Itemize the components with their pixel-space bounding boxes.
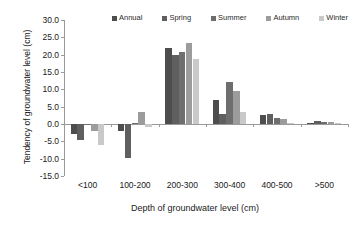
bar-summer-0 [84, 124, 91, 125]
y-tick-mark [61, 176, 64, 177]
y-tick-mark [61, 89, 64, 90]
bar-winter-0 [98, 124, 105, 145]
y-tick-label: 30.0 [25, 15, 59, 25]
bar-spring-5 [314, 121, 321, 124]
bar-annual-0 [71, 124, 78, 134]
x-tick-mark [206, 124, 207, 127]
y-tick-label: 25.0 [25, 32, 59, 42]
x-tick-mark [253, 124, 254, 127]
bar-annual-4 [260, 115, 267, 124]
x-tick-mark [348, 124, 349, 127]
y-axis-line [64, 20, 65, 176]
bar-spring-0 [77, 124, 84, 140]
bar-autumn-1 [138, 112, 145, 124]
bar-spring-4 [267, 114, 274, 124]
bar-autumn-2 [186, 43, 193, 124]
bar-spring-3 [219, 114, 226, 124]
x-tick-label: 200-300 [167, 180, 198, 190]
x-tick-label: >500 [315, 180, 334, 190]
bar-annual-5 [307, 123, 314, 124]
x-tick-label: <100 [78, 180, 97, 190]
bar-summer-2 [179, 52, 186, 124]
x-tick-label: 400-500 [261, 180, 292, 190]
bar-summer-5 [321, 122, 328, 124]
y-tick-label: 20.0 [25, 50, 59, 60]
y-tick-mark [61, 159, 64, 160]
bar-winter-4 [287, 123, 294, 124]
bar-annual-1 [118, 124, 125, 131]
bar-autumn-0 [91, 124, 98, 131]
bar-summer-1 [132, 123, 139, 124]
y-tick-mark [61, 107, 64, 108]
bar-autumn-3 [233, 91, 240, 124]
bar-spring-1 [125, 124, 132, 158]
y-tick-mark [61, 141, 64, 142]
y-tick-mark [61, 72, 64, 73]
x-tick-label: 100-200 [119, 180, 150, 190]
x-tick-mark [159, 124, 160, 127]
y-tick-mark [61, 55, 64, 56]
x-tick-mark [111, 124, 112, 127]
bar-summer-4 [274, 118, 281, 124]
y-tick-mark [61, 37, 64, 38]
bar-autumn-4 [280, 119, 287, 124]
y-tick-mark [61, 20, 64, 21]
y-tick-label: 15.0 [25, 67, 59, 77]
y-tick-label: 5.0 [25, 102, 59, 112]
bar-spring-2 [172, 55, 179, 124]
bar-winter-5 [335, 123, 342, 124]
bar-winter-3 [240, 112, 247, 124]
bar-annual-2 [165, 48, 172, 124]
plot-area: -15.0-10.0-5.00.05.010.015.020.025.030.0… [64, 20, 348, 176]
x-tick-mark [64, 124, 65, 127]
x-tick-label: 300-400 [214, 180, 245, 190]
bar-winter-2 [193, 59, 200, 124]
y-tick-label: -10.0 [25, 154, 59, 164]
x-tick-mark [301, 124, 302, 127]
y-tick-label: -15.0 [25, 171, 59, 181]
y-tick-label: 0.0 [25, 119, 59, 129]
bar-winter-1 [145, 124, 152, 127]
bar-autumn-5 [328, 122, 335, 124]
bar-chart: AnnualSpringSummerAutumnWinter Tendency … [0, 0, 355, 228]
bar-summer-3 [226, 82, 233, 124]
y-tick-label: -5.0 [25, 136, 59, 146]
bar-annual-3 [213, 100, 220, 124]
y-tick-label: 10.0 [25, 84, 59, 94]
x-axis-title: Depth of groundwater level (cm) [40, 203, 350, 213]
